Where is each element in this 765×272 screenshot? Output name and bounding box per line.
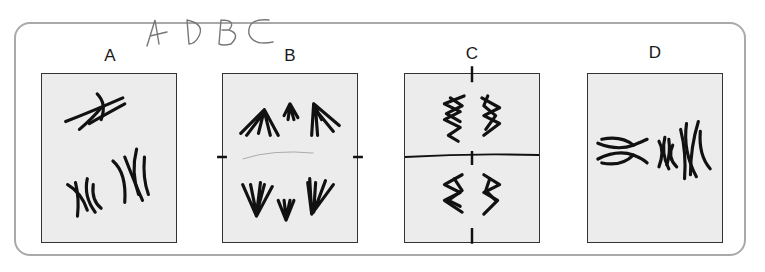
chromosome-drawing-icon xyxy=(588,74,722,242)
panel-label-b: B xyxy=(270,46,310,66)
chromosome-drawing-icon xyxy=(405,74,539,242)
chromosome-drawing-icon xyxy=(42,74,176,242)
panel-a-prophase xyxy=(41,73,177,243)
panel-label-a: A xyxy=(90,46,130,66)
panel-label-c: C xyxy=(452,44,492,64)
panel-d-metaphase xyxy=(587,73,723,243)
panel-c-telophase xyxy=(404,73,540,243)
panel-label-d: D xyxy=(635,43,675,63)
panel-b-anaphase xyxy=(222,73,358,243)
handwritten-answer: A D B C xyxy=(143,14,283,50)
chromosome-drawing-icon xyxy=(223,74,357,242)
